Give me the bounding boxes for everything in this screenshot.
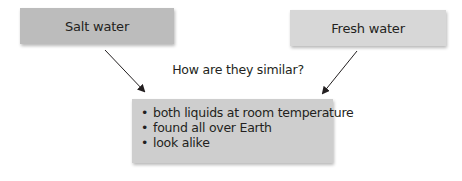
salt-water-label: Salt water — [65, 19, 129, 34]
arrow-salt-to-similarities — [105, 50, 144, 91]
list-item: •look alike — [141, 135, 333, 150]
arrow-fresh-to-similarities — [323, 51, 357, 93]
similarity-question: How are they similar? — [168, 62, 308, 77]
bullet-icon: • — [141, 120, 153, 135]
similarities-list: •both liquids at room temperature •found… — [132, 99, 333, 150]
similarities-box: •both liquids at room temperature •found… — [132, 99, 333, 163]
bullet-icon: • — [141, 105, 153, 120]
list-item: •both liquids at room temperature — [141, 105, 333, 120]
salt-water-box: Salt water — [20, 8, 174, 44]
list-item: •found all over Earth — [141, 120, 333, 135]
fresh-water-box: Fresh water — [290, 10, 446, 46]
bullet-icon: • — [141, 135, 153, 150]
fresh-water-label: Fresh water — [331, 21, 405, 36]
